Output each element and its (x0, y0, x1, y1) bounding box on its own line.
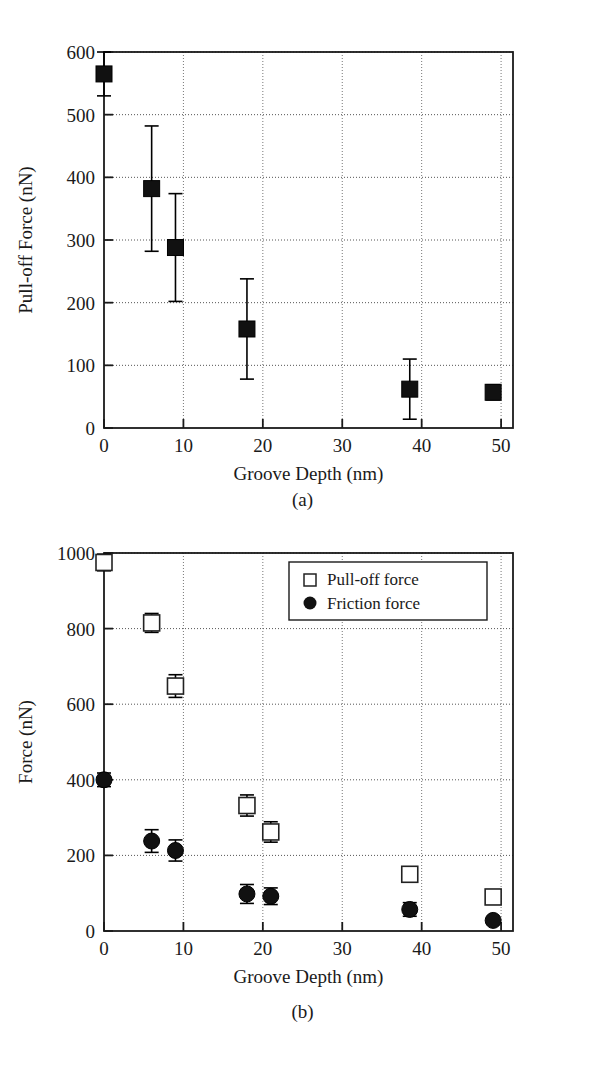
data-point-marker (144, 615, 160, 631)
plot-area-b: 0200400600800100001020304050Groove Depth… (15, 543, 513, 988)
x-tick-label: 10 (174, 435, 193, 456)
data-point-marker (239, 886, 255, 902)
series-friction-force (96, 772, 501, 929)
figure-container: 010020030040050060001020304050Groove Dep… (0, 0, 605, 1069)
data-point-marker (144, 833, 160, 849)
panel-caption-a: (a) (0, 489, 605, 511)
y-tick-label: 1000 (57, 543, 95, 564)
x-axis-label: Groove Depth (nm) (234, 463, 384, 485)
legend-label-pull-off-force: Pull-off force (327, 570, 419, 589)
y-tick-label: 600 (67, 42, 96, 63)
data-point-marker (485, 889, 501, 905)
data-point-marker (167, 240, 183, 256)
data-point-marker (239, 321, 255, 337)
x-tick-label: 0 (99, 938, 109, 959)
legend-label-friction-force: Friction force (327, 594, 420, 613)
y-axis-label: Pull-off Force (nN) (15, 166, 37, 313)
y-tick-label: 0 (86, 921, 96, 942)
y-tick-label: 500 (67, 105, 96, 126)
data-point-marker (96, 554, 112, 570)
panel-caption-b: (b) (0, 1001, 605, 1023)
y-tick-label: 300 (67, 230, 96, 251)
x-tick-label: 50 (492, 435, 511, 456)
legend: Pull-off forceFriction force (289, 562, 487, 620)
x-tick-label: 30 (333, 435, 352, 456)
data-point-marker (167, 842, 183, 858)
y-tick-label: 800 (67, 619, 96, 640)
x-tick-label: 40 (412, 435, 431, 456)
x-tick-label: 30 (333, 938, 352, 959)
data-point-marker (402, 866, 418, 882)
data-point-marker (96, 66, 112, 82)
y-tick-label: 0 (86, 418, 96, 439)
x-tick-label: 0 (99, 435, 109, 456)
y-tick-label: 200 (67, 293, 96, 314)
x-tick-label: 40 (412, 938, 431, 959)
x-tick-label: 20 (253, 435, 272, 456)
x-tick-label: 50 (492, 938, 511, 959)
data-point-marker (402, 901, 418, 917)
data-point-marker (239, 798, 255, 814)
y-tick-label: 200 (67, 845, 96, 866)
data-point-marker (263, 888, 279, 904)
scatter-plot-b: 0200400600800100001020304050Groove Depth… (0, 512, 605, 1012)
y-tick-label: 600 (67, 694, 96, 715)
y-tick-label: 100 (67, 355, 96, 376)
y-tick-label: 400 (67, 770, 96, 791)
plot-area-a: 010020030040050060001020304050Groove Dep… (15, 42, 513, 485)
y-tick-label: 400 (67, 167, 96, 188)
data-point-marker (263, 824, 279, 840)
x-tick-label: 10 (174, 938, 193, 959)
data-point-marker (144, 181, 160, 197)
data-point-marker (167, 678, 183, 694)
data-point-marker (485, 912, 501, 928)
x-tick-label: 20 (253, 938, 272, 959)
series-pull-off-force (96, 52, 501, 419)
data-point-marker (402, 381, 418, 397)
legend-marker-open-square-icon (304, 574, 316, 586)
chart-panel-b: 0200400600800100001020304050Groove Depth… (0, 512, 605, 1069)
scatter-plot-a: 010020030040050060001020304050Groove Dep… (0, 0, 605, 520)
legend-marker-filled-circle-icon (304, 597, 317, 610)
data-point-marker (485, 384, 501, 400)
x-axis-label: Groove Depth (nm) (234, 966, 384, 988)
chart-panel-a: 010020030040050060001020304050Groove Dep… (0, 0, 605, 520)
data-point-marker (96, 772, 112, 788)
y-axis-label: Force (nN) (15, 700, 37, 784)
